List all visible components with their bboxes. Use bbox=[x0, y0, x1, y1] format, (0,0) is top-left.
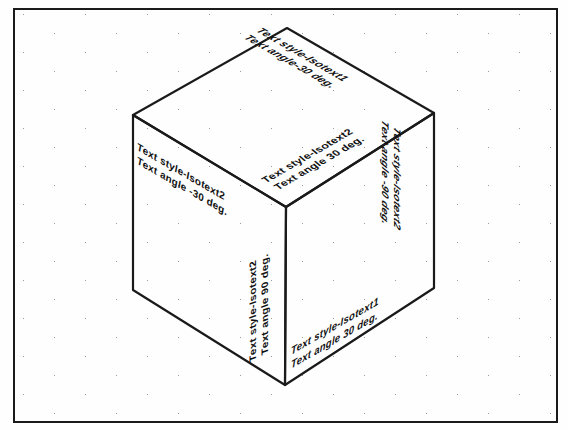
label-right-face-vertical-isotext2: Text style-Isotext2 Text angle -90 deg. bbox=[380, 118, 403, 236]
label-style-line: Text style-Isotext2 bbox=[391, 124, 403, 235]
label-angle-line: Text angle -90 deg. bbox=[380, 118, 392, 229]
label-style-line: Text style-Isotext2 bbox=[247, 257, 259, 365]
drawing-canvas: Text style-Isotext1 Text angle-30 deg. T… bbox=[0, 0, 568, 430]
label-angle-line: Text angle 90 deg. bbox=[259, 250, 271, 358]
label-left-face-vertical-isotext2: Text style-Isotext2 Text angle 90 deg. bbox=[247, 250, 270, 365]
